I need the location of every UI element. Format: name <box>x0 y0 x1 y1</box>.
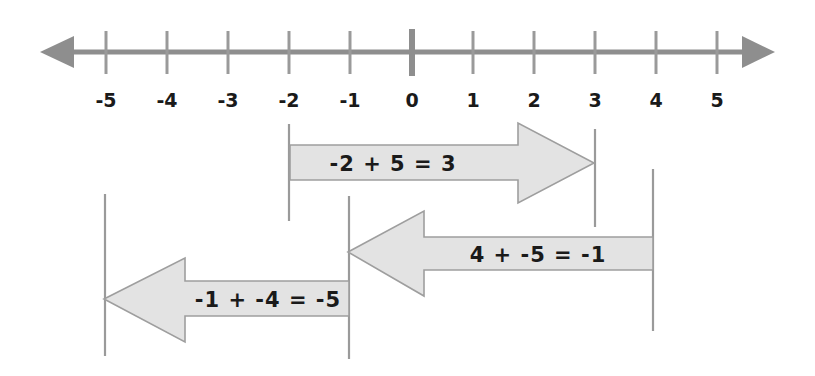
tick-label-0: 0 <box>405 89 418 111</box>
arrow-2: 4 + -5 = -1 <box>348 211 653 296</box>
tick-label--4: -4 <box>156 89 177 111</box>
tick-label-3: 3 <box>588 89 601 111</box>
arrow-1-label: -2 + 5 = 3 <box>330 152 457 176</box>
tick-label-1: 1 <box>466 89 479 111</box>
tick-label--3: -3 <box>217 89 238 111</box>
number-line: -5 -4 -3 -2 -1 0 1 2 3 4 5 <box>40 29 775 111</box>
arrow-1: -2 + 5 = 3 <box>290 123 594 203</box>
tick-label-5: 5 <box>710 89 723 111</box>
arrow-2-label: 4 + -5 = -1 <box>470 243 607 267</box>
number-line-diagram: -5 -4 -3 -2 -1 0 1 2 3 4 5 -2 + 5 = 3 <box>0 0 815 376</box>
axis-right-arrowhead <box>742 36 775 68</box>
tick-label--2: -2 <box>278 89 299 111</box>
tick-label-2: 2 <box>527 89 540 111</box>
axis-left-arrowhead <box>40 36 74 68</box>
tick-label--1: -1 <box>339 89 360 111</box>
diagram-canvas: -5 -4 -3 -2 -1 0 1 2 3 4 5 -2 + 5 = 3 <box>0 0 815 376</box>
arrow-3-label: -1 + -4 = -5 <box>195 288 341 312</box>
tick-label-4: 4 <box>649 89 662 111</box>
arrow-3: -1 + -4 = -5 <box>104 258 349 342</box>
tick-label--5: -5 <box>95 89 116 111</box>
